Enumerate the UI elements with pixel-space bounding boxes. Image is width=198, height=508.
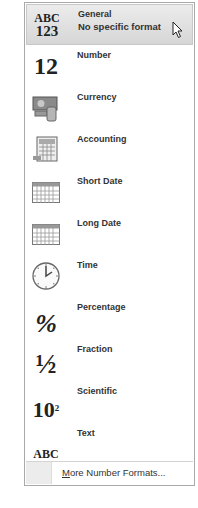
menu-item-text[interactable]: ABC Text [26, 424, 193, 465]
menu-item-label: Time [77, 260, 98, 270]
menu-item-label: Number [77, 50, 111, 60]
menu-item-fraction[interactable]: ½ Fraction [26, 340, 193, 381]
menu-item-currency[interactable]: Currency [26, 88, 193, 129]
number-12-icon: 12 [29, 49, 63, 83]
menu-item-short-date[interactable]: Short Date [26, 172, 193, 213]
menu-item-scientific[interactable]: 102 Scientific [26, 382, 193, 423]
currency-icon [29, 91, 63, 125]
menu-item-label: Accounting [77, 134, 127, 144]
abc-123-icon: ABC 123 [30, 8, 64, 42]
footer-gutter [26, 462, 52, 484]
menu-item-general[interactable]: ABC 123 General No specific format [26, 4, 193, 45]
clock-icon [29, 259, 63, 293]
accounting-icon [29, 133, 63, 167]
menu-item-number[interactable]: 12 Number [26, 46, 193, 87]
mouse-cursor-icon [172, 21, 184, 39]
menu-item-label: General [78, 9, 112, 19]
menu-item-label: Long Date [77, 218, 121, 228]
fraction-icon: ½ [29, 343, 63, 381]
menu-item-label: Percentage [77, 302, 126, 312]
menu-item-percentage[interactable]: % Percentage [26, 298, 193, 339]
number-format-dropdown: ABC 123 General No specific format 12 Nu… [24, 2, 195, 486]
more-number-formats-button[interactable]: More Number Formats... [26, 461, 193, 484]
percent-icon: % [29, 301, 63, 341]
calendar-icon [29, 217, 63, 251]
scientific-icon: 102 [29, 385, 63, 427]
calendar-icon [29, 175, 63, 209]
menu-item-accounting[interactable]: Accounting [26, 130, 193, 171]
more-number-formats-label: More Number Formats... [62, 467, 165, 478]
menu-item-label: Currency [77, 92, 117, 102]
menu-item-time[interactable]: Time [26, 256, 193, 297]
menu-item-label: Short Date [77, 176, 123, 186]
menu-item-label: Text [77, 428, 95, 438]
menu-item-sublabel: No specific format [78, 21, 161, 32]
menu-item-label: Fraction [77, 344, 113, 354]
menu-item-label: Scientific [77, 386, 117, 396]
menu-item-long-date[interactable]: Long Date [26, 214, 193, 255]
